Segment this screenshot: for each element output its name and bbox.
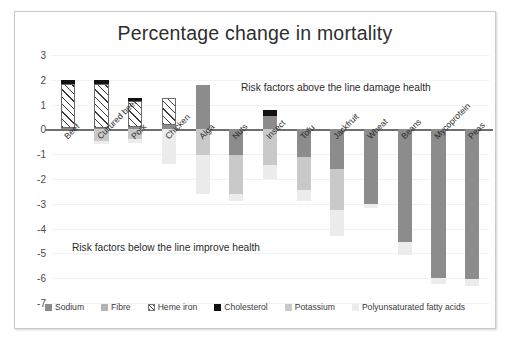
fibre-swatch xyxy=(101,304,108,311)
bar-segment[interactable] xyxy=(431,278,445,284)
legend-item[interactable]: Sodium xyxy=(45,302,84,312)
bar-segment[interactable] xyxy=(465,129,479,279)
y-tick-label: 1 xyxy=(40,99,46,110)
bar-segment[interactable] xyxy=(398,242,412,254)
bar-segment[interactable] xyxy=(263,110,277,115)
bar-segment[interactable] xyxy=(465,279,479,285)
y-tick-label: -4 xyxy=(37,223,46,234)
bar-segment[interactable] xyxy=(330,210,344,236)
cholesterol-swatch xyxy=(214,304,221,311)
potassium-swatch xyxy=(285,304,292,311)
legend-label: Cholesterol xyxy=(224,302,267,312)
y-tick-label: -3 xyxy=(37,198,46,209)
pufa-swatch xyxy=(352,304,359,311)
bar-stack[interactable] xyxy=(162,55,176,303)
bar-stack[interactable] xyxy=(196,55,210,303)
bar-segment[interactable] xyxy=(61,80,75,84)
bar-stack[interactable] xyxy=(465,55,479,303)
y-tick-label: -5 xyxy=(37,248,46,259)
legend-label: Potassium xyxy=(295,302,335,312)
y-tick-label: -1 xyxy=(37,149,46,160)
y-tick-label: 3 xyxy=(40,50,46,61)
bar-segment[interactable] xyxy=(94,80,108,84)
bar-stack[interactable] xyxy=(431,55,445,303)
heme-iron-swatch xyxy=(148,304,155,311)
bar-stack[interactable] xyxy=(94,55,108,303)
bar-segment[interactable] xyxy=(263,165,277,179)
bar-segment[interactable] xyxy=(229,194,243,201)
bar-segment[interactable] xyxy=(196,155,210,193)
bar-stack[interactable] xyxy=(128,55,142,303)
legend-item[interactable]: Fibre xyxy=(101,302,131,312)
chart-legend: SodiumFibreHeme ironCholesterolPotassium… xyxy=(15,302,495,312)
bar-segment[interactable] xyxy=(297,190,311,201)
legend-item[interactable]: Heme iron xyxy=(148,302,198,312)
legend-label: Polyunsaturated fatty acids xyxy=(362,302,465,312)
bar-stack[interactable] xyxy=(61,55,75,303)
bar-segment[interactable] xyxy=(229,155,243,193)
bar-segment[interactable] xyxy=(398,129,412,242)
bar-segment[interactable] xyxy=(61,84,75,128)
y-tick-label: 2 xyxy=(40,74,46,85)
legend-label: Sodium xyxy=(55,302,84,312)
bar-segment[interactable] xyxy=(364,204,378,208)
bar-segment[interactable] xyxy=(162,98,176,125)
chart-container: Percentage change in mortality 3210-1-2-… xyxy=(14,11,496,329)
legend-item[interactable]: Cholesterol xyxy=(214,302,267,312)
bar-segment[interactable] xyxy=(431,129,445,278)
chart-title: Percentage change in mortality xyxy=(15,22,495,45)
legend-item[interactable]: Potassium xyxy=(285,302,335,312)
legend-label: Fibre xyxy=(111,302,131,312)
bar-segment[interactable] xyxy=(330,169,344,210)
y-tick-label: -2 xyxy=(37,174,46,185)
legend-label: Heme iron xyxy=(158,302,198,312)
bar-segment[interactable] xyxy=(297,157,311,190)
sodium-swatch xyxy=(45,304,52,311)
y-tick-label: -6 xyxy=(37,273,46,284)
above-line-note: Risk factors above the line damage healt… xyxy=(241,82,431,93)
legend-item[interactable]: Polyunsaturated fatty acids xyxy=(352,302,465,312)
below-line-note: Risk factors below the line improve heal… xyxy=(72,242,260,253)
